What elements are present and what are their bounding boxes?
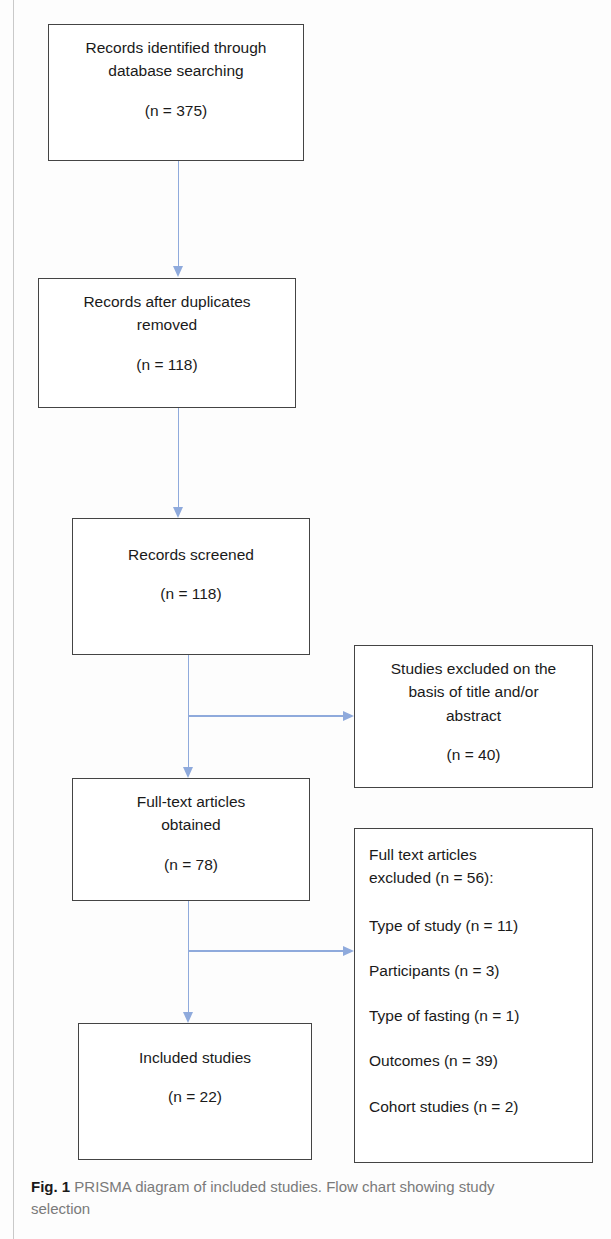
connector-identified-to-duplicates: [178, 161, 180, 266]
arrowhead-identified-to-duplicates: [173, 266, 183, 277]
node-line: basis of title and/or: [408, 680, 538, 703]
node-count: (n = 78): [164, 853, 218, 876]
figure-caption-text: PRISMA diagram of included studies. Flow…: [31, 1178, 495, 1217]
exclusion-reason: Type of fasting (n = 1): [369, 1004, 519, 1027]
node-records-screened: Records screened (n = 118): [72, 518, 310, 655]
arrowhead-fulltext-to-included: [183, 1012, 193, 1023]
connector-fulltext-to-excluded: [188, 950, 344, 952]
arrowhead-duplicates-to-screened: [173, 507, 183, 518]
node-line: Records identified through: [86, 36, 267, 59]
node-line: database searching: [108, 59, 243, 82]
node-included-studies: Included studies (n = 22): [78, 1023, 312, 1160]
connector-duplicates-to-screened: [178, 408, 180, 507]
node-line: abstract: [446, 704, 501, 727]
node-line: Records screened: [128, 543, 254, 566]
arrowhead-screened-to-fulltext: [183, 767, 193, 778]
node-studies-excluded-title-abstract: Studies excluded on the basis of title a…: [354, 645, 593, 788]
node-full-text-articles-excluded: Full text articles excluded (n = 56): Ty…: [354, 828, 593, 1163]
page-margin-rule: [13, 0, 14, 1239]
node-count: (n = 22): [168, 1085, 222, 1108]
node-line: obtained: [161, 813, 220, 836]
exclusion-reason: Type of study (n = 11): [369, 914, 518, 937]
node-line: removed: [137, 313, 197, 336]
figure-label: Fig. 1: [31, 1178, 70, 1195]
connector-screened-trunk: [188, 655, 190, 767]
node-line: Full-text articles: [137, 790, 246, 813]
node-count: (n = 118): [136, 353, 197, 376]
node-count: (n = 40): [447, 743, 501, 766]
exclusion-reason: Cohort studies (n = 2): [369, 1095, 518, 1118]
excluded-head-line: excluded (n = 56):: [369, 866, 494, 889]
prisma-figure-page: Records identified through database sear…: [0, 0, 611, 1239]
arrowhead-fulltext-to-excluded: [343, 946, 354, 956]
node-line: Studies excluded on the: [391, 657, 556, 680]
node-line: Included studies: [139, 1046, 251, 1069]
exclusion-reason: Participants (n = 3): [369, 959, 500, 982]
excluded-head-line: Full text articles: [369, 843, 477, 866]
figure-caption: Fig. 1 PRISMA diagram of included studie…: [31, 1176, 551, 1220]
connector-fulltext-trunk: [188, 901, 190, 1012]
node-line: Records after duplicates: [83, 290, 250, 313]
node-records-after-duplicates: Records after duplicates removed (n = 11…: [38, 278, 296, 408]
arrowhead-screened-to-excluded: [343, 711, 354, 721]
node-count: (n = 118): [160, 582, 221, 605]
exclusion-reason: Outcomes (n = 39): [369, 1049, 498, 1072]
connector-screened-to-excluded: [188, 715, 344, 717]
node-full-text-articles-obtained: Full-text articles obtained (n = 78): [72, 778, 310, 901]
node-count: (n = 375): [145, 99, 207, 122]
node-records-identified: Records identified through database sear…: [48, 24, 304, 161]
